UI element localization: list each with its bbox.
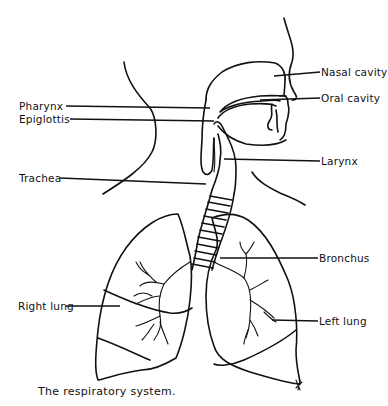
label-trachea: Trachea [19,172,61,184]
label-epiglottis: Epiglottis [19,113,70,125]
lips-teeth [268,95,289,140]
pharynx-wall [201,100,214,174]
right-lung-lower-fissure [98,338,150,360]
label-left-lung: Left lung [319,315,367,327]
leader-pharynx [66,106,210,108]
back-of-neck-outline [103,62,156,194]
label-pharynx: Pharynx [19,100,63,112]
leader-trachea [60,178,206,184]
left-lung-outline [206,215,300,385]
label-nasal-cavity: Nasal cavity [321,66,388,78]
right-lung-outline [96,214,192,380]
jaw-outline [218,126,286,145]
front-neck-outline [252,172,305,205]
nasal-cavity-shape [206,62,285,100]
leader-left-lung [272,320,318,321]
label-oral-cavity: Oral cavity [321,92,380,104]
leader-nasal-cavity [274,72,320,76]
left-lung-fissure [214,330,296,365]
diagram-caption: The respiratory system. [38,385,176,398]
leader-larynx [224,159,320,161]
left-bronchial-tree [214,242,276,344]
leader-epiglottis [70,119,214,121]
right-bronchial-tree [134,262,190,344]
face-profile-outline [284,18,296,100]
label-bronchus: Bronchus [319,252,370,264]
larynx-outline [212,134,236,194]
label-right-lung: Right lung [18,300,74,312]
leader-oral-cavity [260,98,320,100]
label-larynx: Larynx [321,155,358,167]
